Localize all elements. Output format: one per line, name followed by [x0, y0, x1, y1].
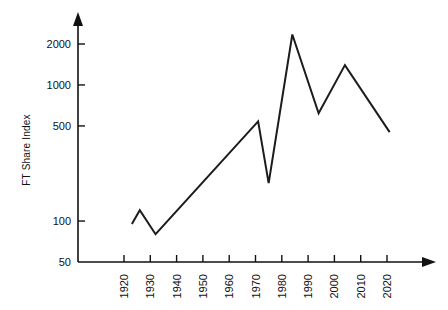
x-tick-label: 1940: [171, 274, 183, 298]
y-tick-group: 5010050010002000: [47, 38, 85, 268]
x-tick-label: 1930: [144, 274, 156, 298]
arrow-right-icon: [422, 257, 436, 267]
y-axis: [73, 12, 83, 262]
y-axis-title-text: FT Share Index: [21, 114, 32, 186]
arrow-up-icon: [73, 12, 83, 26]
chart-container: 5010050010002000 19201930194019501960197…: [0, 0, 448, 310]
x-tick-label: 1960: [223, 274, 235, 298]
y-tick-label: 2000: [47, 38, 71, 50]
x-tick-label: 2000: [328, 274, 340, 298]
y-tick-label: 500: [53, 120, 71, 132]
x-tick-label: 1920: [118, 274, 130, 298]
x-tick-label: 1990: [302, 274, 314, 298]
y-tick-label: 100: [53, 215, 71, 227]
y-tick-label: 1000: [47, 79, 71, 91]
x-tick-label: 2020: [381, 274, 393, 298]
data-series-line: [132, 34, 390, 234]
x-tick-label: 1950: [197, 274, 209, 298]
x-axis: [78, 257, 436, 267]
x-tick-label: 1970: [250, 274, 262, 298]
y-axis-title: FT Share Index: [21, 114, 32, 186]
y-tick-label: 50: [59, 256, 71, 268]
x-tick-label: 2010: [355, 274, 367, 298]
x-tick-label: 1980: [276, 274, 288, 298]
ft-share-index-line-chart: 5010050010002000 19201930194019501960197…: [0, 0, 448, 310]
